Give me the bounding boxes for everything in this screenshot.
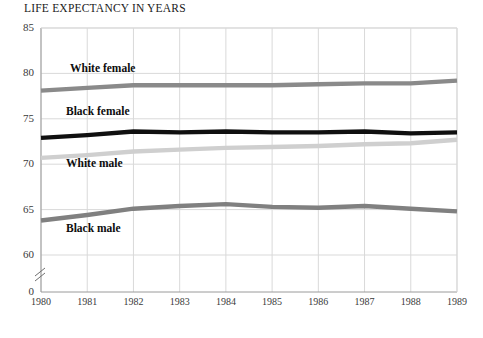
y-axis-break-icon — [35, 268, 45, 281]
x-tick-label-1985: 1985 — [250, 296, 294, 307]
y-tick-label-75: 75 — [8, 112, 34, 124]
life-expectancy-chart-figure: LIFE EXPECTANCY IN YEARS 8580757065600 1… — [0, 0, 483, 338]
x-tick-label-1989: 1989 — [435, 296, 479, 307]
y-tick-label-60: 60 — [8, 248, 34, 260]
x-tick-label-1983: 1983 — [158, 296, 202, 307]
x-tick-label-1981: 1981 — [65, 296, 109, 307]
y-tick-label-70: 70 — [8, 157, 34, 169]
series-label-black-female: Black female — [66, 105, 130, 117]
x-tick-label-1982: 1982 — [111, 296, 155, 307]
x-tick-label-1986: 1986 — [296, 296, 340, 307]
x-tick-label-1980: 1980 — [19, 296, 63, 307]
x-tick-label-1988: 1988 — [389, 296, 433, 307]
series-lines — [41, 81, 457, 221]
series-label-white-female: White female — [70, 62, 135, 74]
y-tick-label-85: 85 — [8, 21, 34, 33]
y-tick-label-65: 65 — [8, 203, 34, 215]
series-label-black-male: Black male — [66, 222, 121, 234]
series-label-white-male: White male — [66, 157, 123, 169]
x-tick-label-1987: 1987 — [343, 296, 387, 307]
y-tick-label-80: 80 — [8, 66, 34, 78]
chart-plot-area — [0, 0, 483, 338]
x-tick-label-1984: 1984 — [204, 296, 248, 307]
